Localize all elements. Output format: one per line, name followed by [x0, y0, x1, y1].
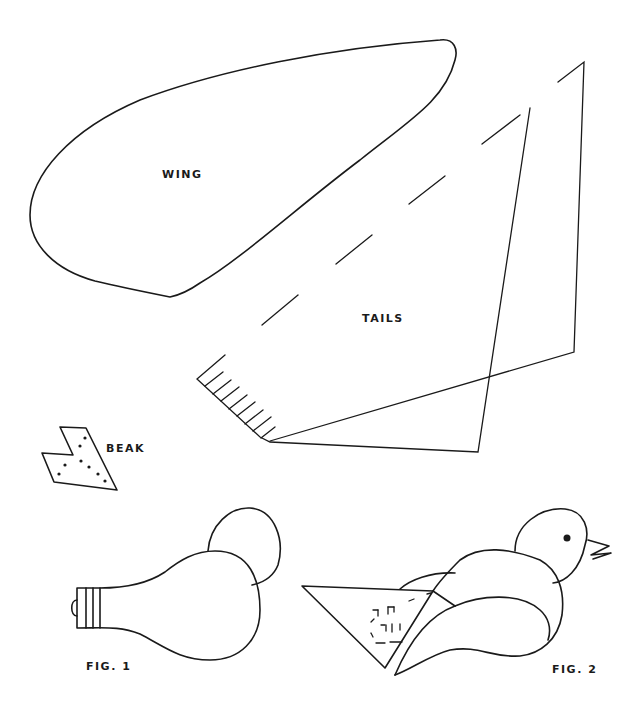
fig2-bird-drawing: FIG. 2 [302, 509, 611, 676]
bird-beak [588, 540, 611, 559]
outer-tail-outline [270, 62, 584, 441]
bulb-head [208, 508, 280, 585]
fig1-label: FIG. 1 [86, 660, 131, 673]
tail-fringe [205, 372, 275, 438]
fig1-bulb-drawing: FIG. 1 [72, 508, 280, 673]
bird-tail [302, 586, 433, 668]
wing-pattern: WING [30, 40, 456, 297]
beak-pattern: BEAK [42, 427, 145, 490]
wing-label: WING [162, 168, 202, 181]
pattern-sheet: WING TAILS [0, 0, 635, 713]
bird-head [515, 509, 587, 583]
wing-outline [30, 40, 456, 297]
fold-line [262, 115, 520, 325]
fig2-label: FIG. 2 [552, 663, 597, 676]
inner-tail-outline [197, 108, 530, 452]
tails-pattern: TAILS [197, 62, 584, 452]
bulb-body [77, 551, 260, 660]
glue-area-dashes [371, 593, 431, 643]
tails-label: TAILS [362, 312, 404, 325]
beak-label: BEAK [106, 442, 145, 455]
